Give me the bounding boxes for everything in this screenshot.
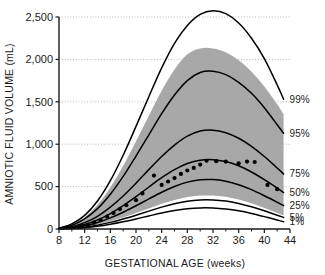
y-tick-label: 1,500 [25,96,53,108]
y-axis-title: AMNIOTIC FLUID VOLUME (mL) [3,43,15,205]
percentile-label-1pct: 1% [290,216,305,227]
y-tick-label: 2,000 [25,53,53,65]
percentile-label-50pct: 50% [290,187,310,198]
scatter-point [275,187,279,191]
x-tick-label: 20 [130,234,142,246]
scatter-point [172,176,176,180]
amniotic-fluid-volume-chart: 8121620242832364044 05001,0001,5002,0002… [0,0,325,275]
x-tick-label: 8 [56,234,62,246]
percentile-label-99pct: 99% [290,94,310,105]
scatter-point [179,172,183,176]
scatter-point [204,159,208,163]
y-tick-label: 500 [35,180,53,192]
scatter-point [253,160,257,164]
x-tick-label: 28 [181,234,193,246]
scatter-point [111,211,115,215]
scatter-point [245,159,249,163]
scatter-point [79,224,83,228]
percentile-label-95pct: 95% [290,128,310,139]
scatter-point [92,221,96,225]
y-tick-label: 0 [47,223,53,235]
scatter-point [224,159,228,163]
x-tick-label: 44 [284,234,296,246]
y-tick-label: 1,000 [25,138,53,150]
scatter-point [198,162,202,166]
scatter-point [134,198,138,202]
x-tick-label: 40 [258,234,270,246]
scatter-point [160,183,164,187]
x-tick-label: 24 [156,234,168,246]
x-tick-label: 36 [233,234,245,246]
scatter-point [166,179,170,183]
scatter-point [99,218,103,222]
scatter-point [237,161,241,165]
scatter-point [105,215,109,219]
x-tick-label: 12 [79,234,91,246]
x-tick-label: 32 [207,234,219,246]
scatter-point [118,207,122,211]
scatter-point [214,159,218,163]
x-tick-label: 16 [104,234,116,246]
percentile-label-25pct: 25% [290,200,310,211]
scatter-point [124,203,128,207]
chart-container: 8121620242832364044 05001,0001,5002,0002… [0,0,325,275]
scatter-point [86,223,90,227]
x-axis-title: GESTATIONAL AGE (weeks) [105,257,245,269]
percentile-label-75pct: 75% [290,168,310,179]
scatter-point [192,166,196,170]
scatter-point [265,183,269,187]
scatter-point [140,191,144,195]
scatter-point [152,173,156,177]
y-tick-label: 2,500 [25,11,53,23]
scatter-point [185,168,189,172]
